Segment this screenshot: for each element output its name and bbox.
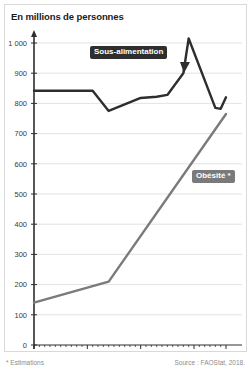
y-axis-arrow xyxy=(31,30,37,37)
y-tick-label: 500 xyxy=(14,190,27,199)
x-tick-label: 1980 xyxy=(26,351,43,352)
y-tick-label: 0 xyxy=(23,341,27,350)
x-tick-label: 2010 xyxy=(186,351,203,352)
y-tick-label: 800 xyxy=(14,99,27,108)
y-tick-label: 1 000 xyxy=(8,39,27,48)
y-tick-label: 400 xyxy=(14,220,27,229)
y-tick-label: 200 xyxy=(14,280,27,289)
y-tick-label: 300 xyxy=(14,250,27,259)
series-line-obesite xyxy=(34,114,226,303)
y-tick-label: 600 xyxy=(14,160,27,169)
y-tick-label: 700 xyxy=(14,129,27,138)
x-minor-ticks-group xyxy=(34,345,226,349)
x-tick-label: 2000 xyxy=(132,351,149,352)
y-tick-labels-group: 01002003004005006007008009001 000 xyxy=(8,39,37,350)
chart-figure: En millions de personnes 010020030040050… xyxy=(0,0,251,375)
series-label-obesite: Obésité * xyxy=(192,170,235,183)
x-tick-label: 2016 xyxy=(218,351,235,352)
footnote-estimations: * Estimations xyxy=(6,359,44,366)
sous-alimentation-label-pointer xyxy=(180,62,190,73)
y-tick-label: 900 xyxy=(14,69,27,78)
footnote-source: Source : FAOStat, 2018. xyxy=(175,359,245,366)
x-tick-label: 1990 xyxy=(79,351,96,352)
x-tick-labels-group: 19801990200020102016 xyxy=(26,351,235,352)
y-tick-label: 100 xyxy=(14,311,27,320)
series-label-sous-alimentation: Sous-alimentation xyxy=(90,46,167,59)
